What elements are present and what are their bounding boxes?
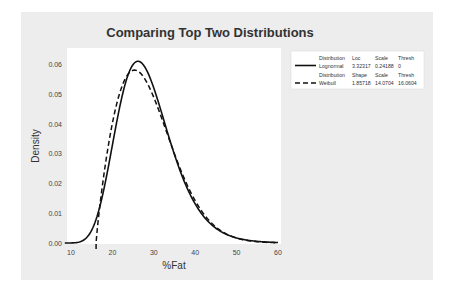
x-tick-label: 10 (67, 249, 75, 256)
legend-value: 3.32317 (352, 63, 371, 69)
legend-header: Scale (375, 72, 388, 78)
legend-value: 1.85718 (352, 80, 371, 86)
x-tick-label: 20 (109, 249, 117, 256)
legend-header: Shape (352, 72, 367, 78)
legend-series-name: Weibull (319, 80, 336, 86)
legend-header: Loc (352, 55, 361, 61)
y-tick-label: 0.01 (48, 210, 62, 217)
legend-value: 16.0604 (398, 80, 417, 86)
y-tick-label: 0.00 (48, 240, 62, 247)
x-axis-label: %Fat (162, 260, 186, 271)
legend-header: Distribution (319, 72, 345, 78)
y-axis-label: Density (30, 129, 41, 162)
legend: Distribution Loc Scale Thresh Lognormal … (291, 51, 424, 89)
y-axis: 0.00 0.01 0.02 0.03 0.04 0.05 0.06 (48, 61, 62, 246)
y-tick-label: 0.05 (48, 91, 62, 98)
x-tick-label: 30 (150, 249, 158, 256)
legend-header: Distribution (319, 55, 345, 61)
chart: Comparing Top Two Distributions 0.00 0.0… (0, 0, 455, 297)
x-tick-label: 60 (274, 249, 282, 256)
y-tick-label: 0.03 (48, 150, 62, 157)
legend-value: 0 (398, 63, 401, 69)
y-tick-label: 0.06 (48, 61, 62, 68)
legend-series-name: Lognormal (319, 63, 344, 69)
chart-title: Comparing Top Two Distributions (106, 25, 314, 40)
y-tick-label: 0.04 (48, 121, 62, 128)
legend-header: Thresh (398, 72, 414, 78)
legend-header: Scale (375, 55, 388, 61)
legend-value: 0.24188 (375, 63, 394, 69)
legend-value: 14.0704 (375, 80, 394, 86)
legend-header: Thresh (398, 55, 414, 61)
x-tick-label: 50 (233, 249, 241, 256)
x-tick-label: 40 (191, 249, 199, 256)
x-axis: 10 20 30 40 50 60 (67, 249, 282, 256)
y-tick-label: 0.02 (48, 180, 62, 187)
